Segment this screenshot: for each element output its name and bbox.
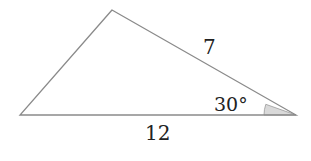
- side-label-7: 7: [203, 35, 216, 59]
- triangle: [20, 10, 296, 115]
- angle-label: 30°: [214, 93, 248, 115]
- triangle-diagram: 7 30° 12: [0, 0, 311, 161]
- side-label-12: 12: [145, 121, 170, 145]
